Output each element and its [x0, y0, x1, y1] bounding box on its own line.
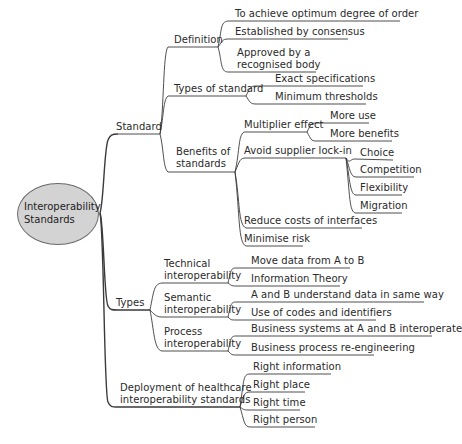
leaf-migration: Migration [360, 200, 408, 212]
leaf-understand-data: A and B understand data in same way [251, 289, 444, 301]
node-benefits-line2: standards [176, 158, 226, 170]
node-deployment-line1: Deployment of healthcare [120, 382, 252, 394]
leaf-more-use: More use [330, 110, 376, 122]
leaf-exact-specifications: Exact specifications [275, 73, 375, 85]
leaf-information-theory: Information Theory [251, 273, 348, 285]
leaf-minimum-thresholds: Minimum thresholds [275, 91, 378, 103]
node-standard: Standard [116, 121, 162, 133]
node-deployment-line2: interoperability standards [120, 394, 251, 406]
node-definition: Definition [174, 34, 223, 46]
leaf-more-benefits: More benefits [330, 128, 399, 140]
leaf-optimum-order: To achieve optimum degree of order [235, 8, 418, 20]
node-multiplier-effect: Multiplier effect [244, 119, 323, 131]
leaf-minimise-risk: Minimise risk [244, 233, 310, 245]
leaf-choice: Choice [360, 147, 394, 159]
node-technical-line2: interoperability [164, 270, 241, 282]
leaf-move-data: Move data from A to B [251, 255, 364, 267]
leaf-business-process: Business process re-engineering [251, 342, 415, 354]
leaf-right-time: Right time [253, 397, 306, 409]
leaf-codes-identifiers: Use of codes and identifiers [251, 307, 392, 319]
node-process-line2: interoperability [164, 338, 241, 350]
leaf-competition: Competition [360, 164, 422, 176]
leaf-right-place: Right place [253, 379, 310, 391]
node-technical-line1: Technical [164, 258, 210, 270]
node-benefits-line1: Benefits of [176, 146, 230, 158]
leaf-flexibility: Flexibility [360, 182, 408, 194]
root-label-line2: Standards [24, 214, 101, 227]
leaf-right-person: Right person [253, 414, 317, 426]
node-semantic-line1: Semantic [164, 292, 211, 304]
leaf-approved-line1: Approved by a [237, 47, 310, 59]
root-label: Interoperability Standards [24, 201, 101, 226]
leaf-approved-line2: recognised body [237, 59, 321, 71]
node-semantic-line2: interoperability [164, 304, 241, 316]
node-process-line1: Process [164, 326, 202, 338]
root-label-line1: Interoperability [24, 201, 101, 214]
leaf-reduce-costs: Reduce costs of interfaces [244, 215, 377, 227]
node-types: Types [116, 297, 144, 309]
node-types-of-standard: Types of standard [174, 83, 263, 95]
leaf-business-systems: Business systems at A and B interoperate [251, 323, 462, 335]
leaf-right-information: Right information [253, 361, 341, 373]
leaf-consensus: Established by consensus [235, 26, 365, 38]
node-avoid-lock-in: Avoid supplier lock-in [244, 145, 352, 157]
